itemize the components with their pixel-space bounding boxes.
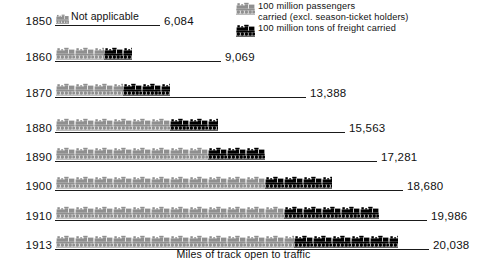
passenger-locomotive-icon [56, 235, 75, 249]
freight-locomotive-icon [332, 235, 351, 249]
freight-locomotive-icon [351, 235, 370, 249]
chart-row-1890: 189017,281 [0, 140, 487, 170]
row-track-line [55, 190, 403, 191]
freight-locomotive-icon [104, 47, 123, 61]
chart-row-1900: 190018,680 [0, 169, 487, 199]
passenger-locomotive-icon [151, 235, 170, 249]
chart-row-1880: 188015,563 [0, 111, 487, 141]
chart-row-1850: 1850Not applicable6,084 [0, 4, 487, 34]
passenger-locomotive-icon [56, 206, 75, 220]
passenger-locomotive-icon [151, 176, 170, 190]
passenger-locomotive-icon [75, 206, 94, 220]
freight-locomotive-icon [284, 206, 303, 220]
passenger-locomotive-icon [94, 176, 113, 190]
freight-locomotive-icon [313, 235, 332, 249]
passenger-locomotive-icon [170, 206, 189, 220]
freight-locomotive-icon [227, 147, 246, 161]
row-not-applicable-label: Not applicable [71, 10, 139, 22]
passenger-locomotive-icon [132, 235, 151, 249]
passenger-locomotive-icon [170, 147, 189, 161]
row-pictogram-strip [56, 118, 218, 132]
isotype-railway-chart: 100 million passengers carried (excl. se… [0, 0, 487, 272]
freight-locomotive-icon [284, 176, 303, 190]
passenger-locomotive-icon [265, 235, 284, 249]
freight-locomotive-icon [123, 83, 142, 97]
passenger-locomotive-icon [208, 176, 227, 190]
chart-row-1870: 187013,388 [0, 76, 487, 106]
chart-row-1910: 191019,986 [0, 199, 487, 229]
row-pictogram-strip [56, 83, 170, 97]
row-pictogram-strip [56, 147, 265, 161]
passenger-locomotive-icon-half [94, 47, 104, 61]
passenger-locomotive-icon [189, 206, 208, 220]
freight-locomotive-icon [265, 176, 284, 190]
row-value-1870: 13,388 [310, 87, 346, 99]
freight-locomotive-icon [360, 206, 379, 220]
passenger-locomotive-icon [227, 206, 246, 220]
passenger-locomotive-icon [227, 176, 246, 190]
passenger-locomotive-icon [94, 147, 113, 161]
row-value-1850: 6,084 [164, 15, 194, 27]
freight-locomotive-icon [170, 118, 189, 132]
freight-locomotive-icon [341, 206, 360, 220]
passenger-locomotive-icon [56, 147, 75, 161]
passenger-locomotive-icon [94, 235, 113, 249]
freight-locomotive-icon-half [161, 83, 171, 97]
passenger-locomotive-icon [170, 176, 189, 190]
passenger-locomotive-icon [151, 147, 170, 161]
row-value-1900: 18,680 [407, 180, 443, 192]
passenger-locomotive-icon [170, 235, 189, 249]
row-pictogram-strip [56, 206, 379, 220]
passenger-locomotive-icon [113, 118, 132, 132]
passenger-locomotive-icon [94, 206, 113, 220]
chart-caption: Miles of track open to traffic [0, 248, 487, 260]
row-track-line [55, 132, 345, 133]
passenger-locomotive-icon [75, 147, 94, 161]
freight-locomotive-icon [294, 235, 313, 249]
row-year-label-1890: 1890 [0, 151, 52, 163]
row-track-line [55, 25, 160, 26]
freight-locomotive-icon [142, 83, 161, 97]
passenger-locomotive-icon [113, 235, 132, 249]
passenger-locomotive-icon [132, 206, 151, 220]
passenger-locomotive-icon [189, 147, 208, 161]
row-track-line [55, 220, 427, 221]
row-track-line [55, 97, 306, 98]
passenger-locomotive-icon [56, 176, 75, 190]
freight-locomotive-icon-half [322, 176, 332, 190]
passenger-locomotive-icon [189, 176, 208, 190]
freight-locomotive-icon [322, 206, 341, 220]
passenger-locomotive-icon-half [113, 83, 123, 97]
chart-row-1860: 18609,069 [0, 40, 487, 70]
passenger-locomotive-icon [208, 235, 227, 249]
row-track-line [55, 61, 221, 62]
row-year-label-1860: 1860 [0, 51, 52, 63]
row-value-1910: 19,986 [431, 210, 467, 222]
freight-locomotive-icon-half [123, 47, 133, 61]
row-track-line [55, 161, 377, 162]
passenger-locomotive-icon [56, 47, 75, 61]
row-pictogram-strip [56, 235, 398, 249]
passenger-locomotive-icon [227, 235, 246, 249]
passenger-locomotive-icon [56, 118, 75, 132]
passenger-locomotive-icon [132, 147, 151, 161]
row-year-label-1870: 1870 [0, 87, 52, 99]
row-value-1890: 17,281 [381, 151, 417, 163]
passenger-locomotive-icon [132, 118, 151, 132]
row-year-label-1900: 1900 [0, 180, 52, 192]
passenger-locomotive-icon [246, 176, 265, 190]
passenger-locomotive-icon [75, 118, 94, 132]
freight-locomotive-icon-half [208, 118, 218, 132]
passenger-locomotive-icon [246, 206, 265, 220]
locomotive-icon-gray-sample [56, 11, 69, 22]
row-value-1880: 15,563 [349, 122, 385, 134]
passenger-locomotive-icon [246, 235, 265, 249]
row-pictogram-strip [56, 47, 132, 61]
passenger-locomotive-icon [265, 206, 284, 220]
passenger-locomotive-icon [151, 206, 170, 220]
passenger-locomotive-icon [151, 118, 170, 132]
row-year-label-1910: 1910 [0, 210, 52, 222]
row-year-label-1880: 1880 [0, 122, 52, 134]
row-year-label-1850: 1850 [0, 15, 52, 27]
freight-locomotive-icon [370, 235, 389, 249]
